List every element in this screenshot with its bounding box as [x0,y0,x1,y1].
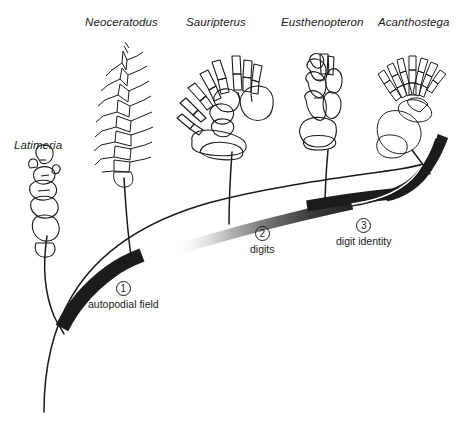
node-label-autopodial-field: autopodial field [88,298,159,310]
node-label-digit-identity: digit identity [336,235,391,247]
branch-sauripterus [229,152,232,224]
taxon-label-acanthostega: Acanthostega [378,16,450,28]
taxon-label-latimeria: Latimeria [14,139,62,151]
branch-neoceratodus [124,178,132,262]
taxon-label-sauripterus: Sauripterus [186,16,246,28]
node-annotation-digit-identity: 3 digit identity [336,218,391,247]
specimen-eusthenopteron [300,54,342,150]
node-number-2: 2 [255,226,270,241]
node-number-3: 3 [356,218,371,233]
phylogeny-figure: Latimeria Neoceratodus Sauripterus Eusth… [0,0,461,422]
node-annotation-autopodial-field: 1 autopodial field [88,281,159,310]
taxon-label-eusthenopteron: Eusthenopteron [281,16,364,28]
node-number-1: 1 [116,281,131,296]
diagram-graphics-layer [0,0,461,422]
taxon-label-neoceratodus: Neoceratodus [85,16,158,28]
specimen-neoceratodus [94,42,153,187]
node-annotation-digits: 2 digits [250,226,275,255]
specimen-sauripterus [177,56,273,160]
node-label-digits: digits [250,243,275,255]
specimen-latimeria [29,145,61,257]
